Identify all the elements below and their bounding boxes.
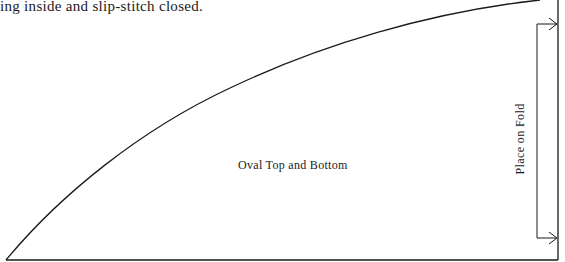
fold-bracket bbox=[537, 24, 557, 238]
fold-label: Place on Fold bbox=[513, 103, 528, 174]
curved-edge bbox=[6, 0, 540, 260]
pattern-piece-outline bbox=[0, 0, 565, 262]
piece-label: Oval Top and Bottom bbox=[238, 158, 348, 173]
